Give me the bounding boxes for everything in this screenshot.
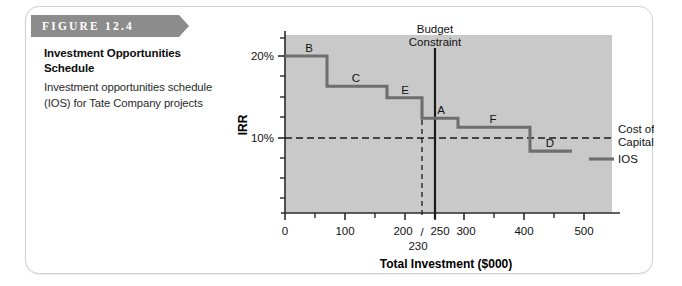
legend-cost-of-capital-line1: Cost of bbox=[618, 123, 654, 135]
x-tick-label-400: 400 bbox=[514, 225, 533, 237]
project-label-e: E bbox=[401, 84, 409, 96]
x-axis-major-ticks bbox=[285, 213, 584, 220]
x-tick-label-0: 0 bbox=[282, 225, 288, 237]
ios-step-line bbox=[285, 56, 572, 151]
y-axis-major-ticks bbox=[278, 56, 285, 138]
y-tick-label-20: 20% bbox=[251, 50, 274, 62]
y-axis-title: IRR bbox=[236, 114, 250, 135]
x-tick-label-300: 300 bbox=[456, 225, 475, 237]
budget-constraint-label-line2: Constraint bbox=[409, 36, 462, 48]
x-axis-minor-ticks bbox=[315, 213, 554, 218]
figure-number-banner: FIGURE 12.4 bbox=[31, 15, 179, 37]
x-tick-label-500: 500 bbox=[574, 225, 593, 237]
x-tick-label-200: 200 bbox=[393, 225, 412, 237]
budget-constraint-label-line1: Budget bbox=[417, 23, 454, 35]
project-label-b: B bbox=[305, 42, 313, 54]
figure-number-label: FIGURE 12.4 bbox=[31, 20, 134, 32]
figure-card: FIGURE 12.4 Investment Opportunities Sch… bbox=[25, 6, 653, 274]
y-axis-minor-ticks bbox=[280, 38, 285, 198]
chevron-right-icon bbox=[179, 15, 189, 37]
legend-cost-of-capital-line2: Capital bbox=[618, 136, 654, 148]
x-tick-label-100: 100 bbox=[335, 225, 354, 237]
plot-background bbox=[285, 35, 612, 213]
figure-caption-block: FIGURE 12.4 Investment Opportunities Sch… bbox=[26, 15, 240, 111]
project-label-c: C bbox=[352, 72, 360, 84]
available-budget-label: 230 bbox=[408, 240, 427, 252]
figure-title: Investment Opportunities Schedule bbox=[44, 46, 222, 77]
y-tick-label-10: 10% bbox=[251, 132, 274, 144]
project-label-a: A bbox=[437, 104, 445, 116]
legend-ios-label: IOS bbox=[618, 153, 638, 165]
figure-description: Investment opportunities schedule (IOS) … bbox=[44, 79, 214, 111]
x-axis-title: Total Investment ($000) bbox=[380, 257, 512, 271]
x-tick-label-250: 250 bbox=[430, 225, 449, 237]
x-tick-label-slash: / bbox=[420, 226, 424, 238]
project-label-f: F bbox=[489, 113, 496, 125]
project-label-d: D bbox=[546, 137, 554, 149]
